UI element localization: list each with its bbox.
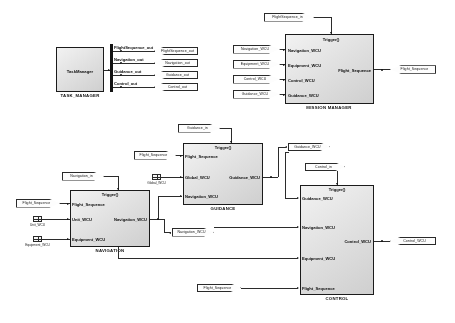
port-marker xyxy=(67,218,69,220)
guidance-trigger-label: Trigger() xyxy=(215,145,232,150)
wire-navigation-out xyxy=(121,63,155,64)
inport-equipment-wcu-mission[interactable]: Equipment_WCU xyxy=(233,60,280,69)
port-marker xyxy=(180,155,182,157)
outport-flight-sequence-mission[interactable]: Flight_Sequence xyxy=(390,65,436,74)
wire-nv-in3 xyxy=(42,239,70,240)
inport-flight-sequence-guidance[interactable]: Flight_Sequence xyxy=(134,151,176,160)
wire-ctrl-in3-v xyxy=(118,247,119,258)
wire-guidance-out xyxy=(121,75,155,76)
control-input-equipment-wcu: Equipment_WCU xyxy=(302,256,335,261)
outport-guidance-wcu-tag[interactable]: Guidance_WCU xyxy=(288,143,330,152)
inport-guidance-in[interactable]: Guidance_in xyxy=(178,124,220,133)
port-marker xyxy=(67,203,69,205)
arrow-trigger-guidance xyxy=(230,141,232,143)
from-block-equipment-wcu-label: Equipment_WCU xyxy=(25,243,50,247)
port-marker xyxy=(180,176,182,178)
wire-nv-out-h1 xyxy=(164,232,171,233)
junction-dot xyxy=(381,240,383,242)
wire-gd-out-v xyxy=(278,147,279,177)
mission-manager-input-control-wcu: Control_WCU xyxy=(288,77,315,82)
wire-ctrl-in1-v xyxy=(285,152,286,198)
junction-dot xyxy=(381,69,383,71)
control-input-navigation-wcu: Navigation_WCU xyxy=(302,225,335,230)
arrow-trigger-nav xyxy=(117,188,119,190)
arrow-trigger-control xyxy=(336,183,338,185)
navigation-caption: NAVIGATION xyxy=(96,248,125,253)
inport-flightsequence-in-mission[interactable]: FlightSequence_in xyxy=(264,13,314,22)
inport-guidance-wcu-mission[interactable]: Guidance_WCU xyxy=(233,90,280,99)
outport-navigation-out[interactable]: Navigation_out xyxy=(154,59,198,68)
junction-dot xyxy=(270,176,272,178)
control-caption: CONTROL xyxy=(326,296,349,301)
outport-control-out[interactable]: Control_out xyxy=(154,83,198,92)
guidance-input-flight-sequence: Flight_Sequence xyxy=(185,153,218,158)
mission-manager-input-equipment-wcu: Equipment_WCU xyxy=(288,62,321,67)
control-input-guidance-wcu: Guidance_WCU xyxy=(302,196,333,201)
wire-trigger-guidance-h xyxy=(220,128,231,129)
wire-flightsequence-out xyxy=(121,51,155,52)
wire-trigger-nav-h xyxy=(104,176,118,177)
bus-label-control-out: Control_out xyxy=(114,81,137,86)
wire-ctrl-in1-h xyxy=(285,198,298,199)
outport-control-wcu[interactable]: Control_WCU xyxy=(390,237,436,246)
from-block-global-wcu-label: Global_WCU xyxy=(147,181,166,185)
inport-navigation-in[interactable]: Navigation_in xyxy=(62,172,104,181)
from-block-unit-wcu-label: Unit_WCU xyxy=(30,223,45,227)
port-marker xyxy=(283,64,285,66)
control-output-control-wcu: Control_WCU xyxy=(344,239,371,244)
guidance-input-global-wcu: Global_WCU xyxy=(185,175,210,180)
mission-manager-output-flight-sequence: Flight_Sequence xyxy=(338,67,371,72)
inport-navigation-wcu-mission[interactable]: Navigation_WCU xyxy=(233,45,280,54)
wire-ctrl-in3-h xyxy=(118,258,298,259)
guidance-output-guidance-wcu: Guidance_WCU xyxy=(229,175,260,180)
arrow-trigger-mission xyxy=(330,32,332,34)
navigation-input-unit-wcu: Unit_WCU xyxy=(72,217,92,222)
navigation-input-flight-sequence: Flight_Sequence xyxy=(72,201,105,206)
wire-nv-in2 xyxy=(42,219,70,220)
wire-nv-to-gd-h xyxy=(158,196,182,197)
scan-artifact xyxy=(10,108,13,120)
simulink-diagram-canvas: TaskManager TASK_MANAGER FlightSequence_… xyxy=(0,0,455,323)
bus-label-navigation-out: Navigation_out xyxy=(114,57,144,62)
wire-ctrl-in1-top xyxy=(285,152,289,153)
wire-nv-out-v1 xyxy=(164,219,165,233)
navigation-input-equipment-wcu: Equipment_WCU xyxy=(72,237,105,242)
task-manager-caption: TASK_MANAGER xyxy=(61,93,100,98)
inport-control-in[interactable]: Control_in xyxy=(305,163,345,172)
navigation-trigger-label: Trigger() xyxy=(102,192,119,197)
port-marker xyxy=(283,79,285,81)
scan-artifact xyxy=(6,2,8,12)
wire-ctrl-in4 xyxy=(241,288,298,289)
guidance-input-navigation-wcu: Navigation_WCU xyxy=(185,194,218,199)
inport-control-wcu-mission[interactable]: Control_WCU xyxy=(233,75,280,84)
from-block-global-wcu[interactable] xyxy=(152,174,161,180)
wire-ctrl-in2 xyxy=(214,227,298,228)
outport-navigation-wcu-tag[interactable]: Navigation_WCU xyxy=(172,228,214,237)
wire-control-out xyxy=(121,87,155,88)
outport-flightsequence-out[interactable]: FlightSequence_out xyxy=(154,47,198,56)
port-marker xyxy=(67,238,69,240)
inport-flight-sequence-navigation[interactable]: Flight_Sequence xyxy=(16,199,60,208)
bus-label-guidance-out: Guidance_out xyxy=(114,69,141,74)
mission-manager-input-guidance-wcu: Guidance_WCU xyxy=(288,92,319,97)
navigation-output-navigation-wcu: Navigation_WCU xyxy=(114,217,147,222)
outport-guidance-out[interactable]: Guidance_out xyxy=(154,71,198,80)
mission-manager-caption: MISSION MANAGER xyxy=(306,105,351,110)
mission-manager-input-navigation-wcu: Navigation_WCU xyxy=(288,47,321,52)
control-input-flight-sequence: Flight_Sequence xyxy=(302,286,335,291)
control-trigger-label: Trigger() xyxy=(329,187,346,192)
wire-trigger-mission-h xyxy=(314,17,331,18)
from-block-unit-wcu[interactable] xyxy=(33,216,42,222)
guidance-caption: GUIDANCE xyxy=(211,206,236,211)
port-marker xyxy=(283,49,285,51)
mission-manager-trigger-label: Trigger() xyxy=(323,37,340,42)
wire-nv-to-gd-v xyxy=(158,196,159,219)
bus-label-flightsequence-out: FlightSequence_out xyxy=(114,45,153,50)
inport-flight-sequence-control[interactable]: Flight_Sequence xyxy=(197,284,241,293)
task-manager-block-label: TaskManager xyxy=(67,69,93,74)
wire-gd-out-to-tag xyxy=(278,147,286,148)
from-block-equipment-wcu[interactable] xyxy=(33,236,42,242)
port-marker xyxy=(283,94,285,96)
